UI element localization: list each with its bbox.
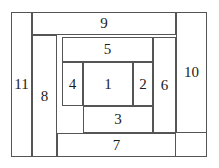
- rectangle-dissection-diagram: 1234567891011: [0, 0, 219, 168]
- region-6[interactable]: 6: [153, 37, 176, 133]
- region-label-1: 1: [104, 77, 112, 92]
- region-10[interactable]: 10: [176, 12, 207, 133]
- region-5[interactable]: 5: [62, 37, 153, 62]
- region-label-4: 4: [69, 77, 77, 92]
- region-9[interactable]: 9: [32, 12, 176, 35]
- region-label-10: 10: [184, 65, 199, 80]
- region-11[interactable]: 11: [11, 12, 32, 157]
- region-label-2: 2: [139, 77, 147, 92]
- region-4[interactable]: 4: [62, 62, 83, 106]
- region-label-8: 8: [41, 89, 49, 104]
- region-2[interactable]: 2: [133, 62, 153, 106]
- region-1[interactable]: 1: [83, 62, 133, 106]
- region-label-7: 7: [113, 138, 121, 153]
- region-label-11: 11: [14, 77, 28, 92]
- region-3[interactable]: 3: [83, 106, 153, 133]
- region-label-5: 5: [104, 42, 112, 57]
- region-label-9: 9: [100, 16, 108, 31]
- region-label-3: 3: [114, 112, 122, 127]
- region-7[interactable]: 7: [57, 133, 176, 157]
- region-8[interactable]: 8: [32, 35, 57, 157]
- region-label-6: 6: [161, 78, 169, 93]
